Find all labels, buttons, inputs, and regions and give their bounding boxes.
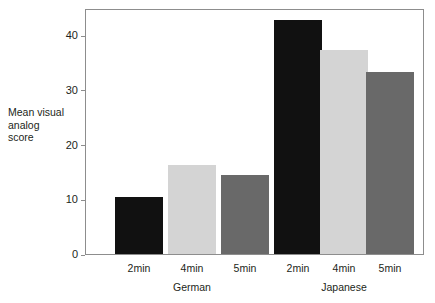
x-tick-label-german-4min: 4min <box>162 262 222 275</box>
x-axis: 2min4min5min2min4min5minGermanJapanese <box>0 255 435 303</box>
bar-chart: Mean visual analog score 010203040 2min4… <box>0 0 435 303</box>
bar-japanese-4min <box>320 50 368 254</box>
bar-german-2min <box>115 197 163 254</box>
bar-japanese-5min <box>366 72 414 254</box>
x-tick-label-german-5min: 5min <box>215 262 275 275</box>
y-tick-label: 10 <box>66 193 78 206</box>
y-tick-label: 30 <box>66 84 78 97</box>
bar-japanese-2min <box>274 20 322 254</box>
group-label-japanese: Japanese <box>294 281 394 294</box>
group-label-german: German <box>142 281 242 294</box>
y-tick-label: 20 <box>66 139 78 152</box>
x-tick-label-german-2min: 2min <box>109 262 169 275</box>
plot-area <box>85 9 424 255</box>
x-tick-label-japanese-5min: 5min <box>360 262 420 275</box>
bar-german-4min <box>168 165 216 254</box>
y-tick-label: 40 <box>66 29 78 42</box>
bar-german-5min <box>221 175 269 254</box>
